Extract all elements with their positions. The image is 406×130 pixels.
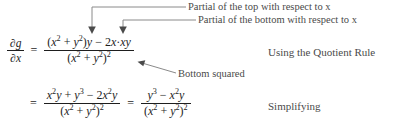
quotient-rule-numerator: (x2 + y2)y − 2x·xy [44,36,134,49]
callout-label-top: Partial of the top with respect to x [188,2,331,13]
leader-line-bottom-callout [119,20,196,34]
expanded-numerator: x2y + y3 − 2x2y [44,89,120,102]
callout-label-bottom-squared: Bottom squared [178,69,245,80]
lhs-numerator: ∂g [7,37,24,50]
leader-line-denominator-callout [138,60,177,73]
equals-sign-2: = [30,96,37,111]
quotient-rule-denominator: (x2 + y2)2 [64,52,114,65]
equals-sign-3: = [127,96,134,111]
fraction-bar [7,50,24,51]
comment-simplifying: Simplifying [268,101,321,112]
expanded-fraction: x2y + y3 − 2x2y (x2 + y2)2 [44,89,120,119]
simplified-denominator: (x2 + y2)2 [141,105,191,118]
equation-line-2: = x2y + y3 − 2x2y (x2 + y2)2 = y3 − x2y … [26,89,194,119]
simplified-fraction: y3 − x2y (x2 + y2)2 [141,89,191,119]
lhs-denominator: ∂x [7,52,24,65]
expanded-denominator: (x2 + y2)2 [57,105,107,118]
callout-label-bottom: Partial of the bottom with respect to x [198,15,357,26]
leader-line-top-callout [88,7,186,34]
quotient-rule-fraction: (x2 + y2)y − 2x·xy (x2 + y2)2 [44,36,134,66]
equation-line-1: ∂g ∂x = (x2 + y2)y − 2x·xy (x2 + y2)2 [4,36,137,66]
comment-quotient-rule: Using the Quotient Rule [268,47,375,58]
equals-sign-1: = [30,43,37,58]
math-derivation-figure: Partial of the top with respect to x Par… [0,0,406,130]
simplified-numerator: y3 − x2y [144,89,187,102]
partial-derivative-lhs: ∂g ∂x [7,37,24,66]
